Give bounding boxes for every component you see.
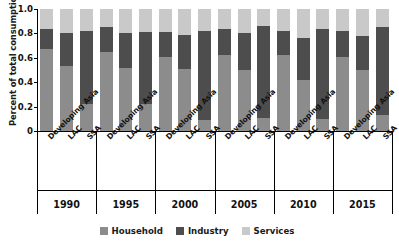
bar-segment-services — [178, 9, 191, 35]
bar-segment-services — [336, 9, 349, 31]
group-separator-line — [215, 131, 216, 214]
y-axis-tick-label: 1.0 — [3, 4, 37, 14]
stacked-bar — [376, 9, 389, 131]
bar-segment-services — [218, 9, 231, 29]
bar-segment-household — [336, 57, 349, 131]
bar-segment-industry — [336, 31, 349, 57]
chart-legend: HouseholdIndustryServices — [0, 226, 394, 236]
stacked-bar — [100, 9, 113, 131]
bar-segment-industry — [100, 27, 113, 51]
stacked-bar — [40, 9, 53, 131]
legend-swatch-icon — [242, 227, 250, 235]
bar-segment-services — [159, 9, 172, 32]
legend-label: Industry — [188, 226, 229, 236]
bar-segment-services — [277, 9, 290, 31]
y-axis-tick-label: 0.2 — [3, 102, 37, 112]
bar-segment-household — [100, 52, 113, 131]
legend-swatch-icon — [100, 227, 108, 235]
stacked-bar — [159, 9, 172, 131]
bar-segment-household — [277, 55, 290, 131]
x-axis-year-label: 1990 — [53, 199, 80, 210]
bar-segment-industry — [178, 35, 191, 69]
bar-segment-industry — [119, 33, 132, 67]
bar-segment-services — [80, 9, 93, 31]
plot-area: 00.20.40.60.81.0 — [37, 9, 392, 131]
bar-segment-household — [159, 57, 172, 131]
bar-segment-industry — [297, 38, 310, 79]
bar-segment-industry — [60, 33, 73, 66]
bar-segment-industry — [277, 31, 290, 55]
bar-segment-services — [376, 9, 389, 27]
bar-segment-services — [119, 9, 132, 33]
legend-item[interactable]: Industry — [176, 226, 229, 236]
bar-segment-household — [218, 55, 231, 131]
stacked-bar — [316, 9, 329, 131]
bar-series-container — [37, 9, 392, 131]
bar-segment-services — [257, 9, 270, 26]
group-separator-line — [96, 131, 97, 214]
bar-segment-services — [100, 9, 113, 27]
stacked-bar — [198, 9, 211, 131]
y-axis-tick-label: 0.6 — [3, 53, 37, 63]
bar-segment-household — [40, 49, 53, 131]
group-separator-line — [37, 131, 38, 214]
bar-segment-services — [40, 9, 53, 29]
x-axis-year-label: 2005 — [231, 199, 258, 210]
bar-segment-services — [316, 9, 329, 29]
bar-segment-services — [60, 9, 73, 33]
group-separator-line — [333, 131, 334, 214]
stacked-bar — [277, 9, 290, 131]
group-separator-line — [274, 131, 275, 214]
group-separator-line — [155, 131, 156, 214]
legend-label: Services — [254, 226, 295, 236]
x-axis-year-label: 2010 — [290, 199, 317, 210]
bar-segment-services — [297, 9, 310, 38]
bar-segment-services — [238, 9, 251, 33]
y-axis-tick-label: 0.8 — [3, 28, 37, 38]
legend-label: Household — [112, 226, 163, 236]
bar-segment-services — [198, 9, 211, 31]
bar-segment-industry — [356, 36, 369, 70]
y-axis-tick-label: 0 — [3, 126, 37, 136]
stacked-bar — [336, 9, 349, 131]
stacked-bar — [80, 9, 93, 131]
bar-segment-industry — [238, 33, 251, 70]
bar-segment-industry — [218, 29, 231, 56]
legend-swatch-icon — [176, 227, 184, 235]
x-axis-year-label: 2015 — [349, 199, 376, 210]
x-axis-year-label: 2000 — [172, 199, 199, 210]
legend-item[interactable]: Household — [100, 226, 163, 236]
stacked-bar — [257, 9, 270, 131]
y-axis-tick-label: 0.4 — [3, 77, 37, 87]
x-axis-year-label: 1995 — [112, 199, 139, 210]
bar-segment-industry — [159, 32, 172, 56]
stacked-bar — [218, 9, 231, 131]
bar-segment-industry — [40, 29, 53, 50]
legend-item[interactable]: Services — [242, 226, 295, 236]
group-separator-line — [392, 131, 393, 214]
bar-segment-services — [139, 9, 152, 32]
stacked-bar — [139, 9, 152, 131]
bar-segment-services — [356, 9, 369, 36]
